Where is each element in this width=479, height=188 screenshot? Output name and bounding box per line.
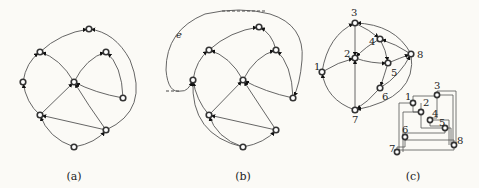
node-5 xyxy=(385,60,391,66)
node xyxy=(71,144,77,150)
ortho-label-7: 7 xyxy=(389,143,395,154)
node-label-2: 2 xyxy=(344,48,350,59)
caption-a: (a) xyxy=(66,170,81,183)
ortho-label-6: 6 xyxy=(402,124,408,135)
ortho-label-1: 1 xyxy=(405,91,411,102)
node xyxy=(273,47,279,53)
node-label-5: 5 xyxy=(391,67,397,78)
panel-a: (a) xyxy=(20,26,136,183)
node-label-6: 6 xyxy=(382,91,388,102)
ortho-label-4: 4 xyxy=(432,108,438,119)
node-6 xyxy=(377,85,383,91)
node xyxy=(273,127,279,133)
node xyxy=(71,79,77,85)
node-4 xyxy=(377,36,383,42)
node xyxy=(256,24,262,30)
node xyxy=(206,112,212,118)
figure-canvas: (a) e xyxy=(0,0,479,188)
ortho-node-3 xyxy=(434,92,439,97)
panel-c: 1 2 3 4 5 6 7 8 xyxy=(314,7,463,183)
node-3 xyxy=(352,20,358,26)
panel-b-edges xyxy=(166,10,302,147)
ortho-label-3: 3 xyxy=(434,80,440,91)
node xyxy=(20,79,26,85)
panel-b: e xyxy=(166,10,302,183)
panel-a-nodes xyxy=(20,26,126,150)
node xyxy=(86,26,92,32)
node xyxy=(37,112,43,118)
caption-b: (b) xyxy=(235,170,251,183)
node xyxy=(240,77,246,83)
node-7 xyxy=(352,107,358,113)
panel-a-edges xyxy=(23,29,136,147)
node xyxy=(290,95,296,101)
ortho-node-8 xyxy=(451,142,456,147)
node xyxy=(190,77,196,83)
panel-b-nodes xyxy=(190,24,296,150)
node xyxy=(103,49,109,55)
node xyxy=(206,47,212,53)
node-label-8: 8 xyxy=(417,49,423,60)
ortho-label-8: 8 xyxy=(457,135,463,146)
caption-c: (c) xyxy=(406,170,421,183)
node xyxy=(37,49,43,55)
node-label-7: 7 xyxy=(352,114,358,125)
node-8 xyxy=(408,51,414,57)
node xyxy=(103,127,109,133)
node xyxy=(240,144,246,150)
ortho-label-2: 2 xyxy=(423,97,429,108)
ortho-label-5: 5 xyxy=(439,117,445,128)
panel-c-edges xyxy=(322,23,412,110)
node-2 xyxy=(352,55,358,61)
ortho-node-2 xyxy=(418,109,423,114)
node-label-3: 3 xyxy=(351,7,357,18)
panel-c-orthogonal: 1 2 3 4 5 6 7 8 xyxy=(389,80,463,155)
node-label-1: 1 xyxy=(314,61,320,72)
node-label-4: 4 xyxy=(369,36,375,47)
ortho-node-6 xyxy=(402,134,407,139)
panel-c-nodes xyxy=(319,20,414,113)
node xyxy=(120,95,126,101)
